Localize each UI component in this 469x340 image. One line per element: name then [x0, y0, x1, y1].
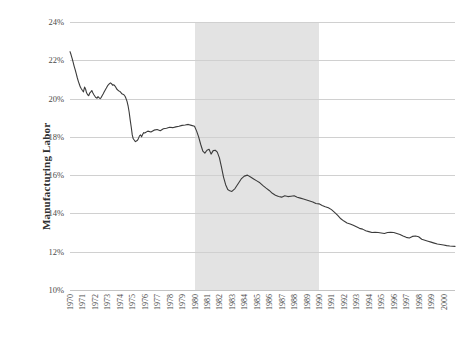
y-tick-22%: 22% [24, 55, 64, 65]
y-tick-16%: 16% [24, 170, 64, 180]
series-line-manufacturing-labor [70, 52, 455, 247]
y-tick-24%: 24% [24, 17, 64, 27]
gridline-10% [70, 290, 455, 291]
y-tick-18%: 18% [24, 132, 64, 142]
y-tick-14%: 14% [24, 208, 64, 218]
y-tick-20%: 20% [24, 94, 64, 104]
chart-figure: Manufacturing Labor 10%12%14%16%18%20%22… [0, 0, 469, 340]
y-axis-title: Manufacturing Labor [36, 0, 56, 230]
y-tick-10%: 10% [24, 285, 64, 295]
plot-area: 10%12%14%16%18%20%22%24% 197019711972197… [70, 22, 455, 290]
y-tick-12%: 12% [24, 247, 64, 257]
series-layer [70, 22, 455, 290]
